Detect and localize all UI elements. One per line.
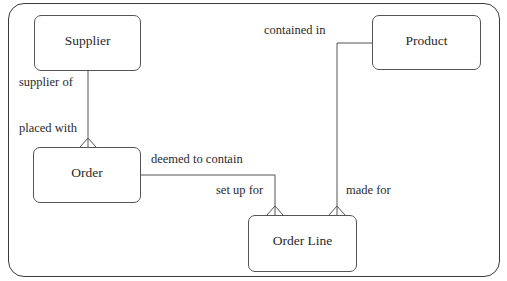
entity-order-label: Order: [71, 165, 102, 202]
entity-supplier-label: Supplier: [65, 33, 111, 70]
entity-order[interactable]: Order: [33, 147, 141, 203]
entity-order-line-label: Order Line: [273, 233, 333, 271]
label-deemed-to-contain: deemed to contain: [151, 153, 243, 166]
label-set-up-for: set up for: [216, 184, 263, 197]
entity-product[interactable]: Product: [372, 15, 481, 70]
entity-order-line[interactable]: Order Line: [248, 215, 357, 272]
entity-product-label: Product: [406, 33, 448, 69]
label-placed-with: placed with: [19, 122, 77, 135]
label-supplier-of: supplier of: [19, 76, 73, 89]
entity-supplier[interactable]: Supplier: [34, 15, 141, 71]
label-contained-in: contained in: [264, 24, 325, 37]
label-made-for: made for: [346, 184, 391, 197]
